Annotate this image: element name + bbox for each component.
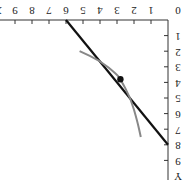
x-tick-label: 4 (97, 5, 103, 17)
y-tick-label: 1 (175, 31, 181, 43)
y-tick-label: 9 (175, 156, 181, 168)
x-tick-label: 6 (63, 5, 69, 17)
x-tick-label: 8 (29, 5, 35, 17)
chart-svg: 0123456789X123456789Y (0, 0, 189, 185)
x-tick-label: 5 (80, 5, 86, 17)
series (66, 20, 168, 145)
tangency-point (117, 76, 123, 82)
y-axis-label: Y (174, 171, 182, 183)
y-tick-label: 6 (175, 109, 181, 121)
x-axis-label: X (0, 5, 2, 17)
indifference-curve (80, 51, 141, 137)
y-tick-label: 3 (175, 62, 181, 74)
x-tick-label: 1 (148, 5, 154, 17)
y-tick-label: 4 (175, 78, 181, 90)
chart: 0123456789X123456789Y (0, 0, 189, 185)
y-tick-label: 8 (175, 140, 181, 152)
x-tick-label: 9 (12, 5, 18, 17)
x-tick-label: 7 (46, 5, 52, 17)
x-tick-label: 2 (131, 5, 137, 17)
budget-line (66, 20, 168, 145)
axes: 0123456789X123456789Y (0, 5, 182, 183)
y-tick-label: 5 (175, 93, 181, 105)
y-tick-label: 7 (175, 125, 181, 137)
y-tick-label: 2 (175, 47, 181, 59)
origin-label: 0 (175, 5, 181, 17)
x-tick-label: 3 (114, 5, 120, 17)
